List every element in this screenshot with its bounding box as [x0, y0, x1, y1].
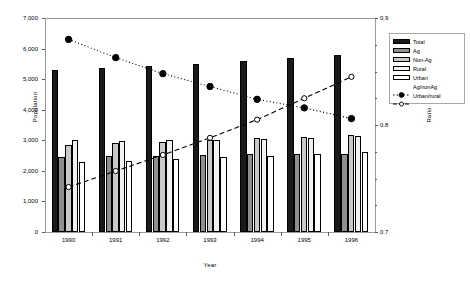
y-axis-right-minor-tickmark [375, 205, 377, 206]
marker-ag-nonag [348, 115, 354, 121]
y-axis-right-tick-label: 0.8 [380, 122, 402, 128]
legend-item-label: Urban/rural [413, 93, 441, 99]
legend-item-label: Rural [413, 66, 426, 72]
legend-item[interactable]: Ag/nonAg [393, 82, 462, 91]
y-axis-right-tickmark [375, 125, 378, 126]
bar-non-ag [65, 145, 71, 232]
y-axis-left-tickmark [42, 201, 45, 202]
bar-total [334, 55, 340, 232]
y-axis-left-tick-label: 7,000 [2, 15, 38, 21]
marker-urban-rural [302, 96, 307, 101]
bar-total [193, 64, 199, 232]
x-axis-tick-label: 1995 [284, 237, 324, 243]
bar-ag [341, 154, 347, 232]
legend-line-icon [393, 84, 410, 90]
axis-bottom-line [45, 232, 376, 233]
bar-urban [362, 152, 368, 232]
x-axis-tick-label: 1996 [331, 237, 371, 243]
bar-rural [213, 140, 219, 232]
bar-non-ag [301, 137, 307, 232]
y-axis-left-tickmark [42, 110, 45, 111]
bar-urban [126, 161, 132, 232]
x-axis-title: Year [150, 262, 270, 268]
bar-ag [247, 154, 253, 232]
x-axis-tickmark [234, 232, 235, 236]
bar-rural [355, 136, 361, 232]
axis-left-line [45, 18, 46, 233]
y-axis-right-tickmark [375, 232, 378, 233]
y-axis-left-tick-label: 2,000 [2, 168, 38, 174]
y-axis-right-tick-label: 0.7 [380, 229, 402, 235]
bar-rural [72, 140, 78, 232]
legend-line-icon [393, 93, 410, 99]
x-axis-tickmark [92, 232, 93, 236]
bar-ag [294, 154, 300, 232]
legend-item-label: Urban [413, 75, 428, 81]
line-ag-nonag [69, 39, 352, 118]
bar-rural [119, 141, 125, 232]
bar-non-ag [348, 135, 354, 232]
y-axis-right-minor-tickmark [375, 152, 377, 153]
y-axis-left-title: Population [32, 77, 38, 137]
y-axis-left-tickmark [42, 140, 45, 141]
legend-item[interactable]: Rural [393, 64, 462, 73]
y-axis-left-tickmark [42, 232, 45, 233]
bar-non-ag [112, 143, 118, 232]
marker-ag-nonag [301, 105, 307, 111]
bar-rural [166, 140, 172, 232]
legend-item-label: Ag/nonAg [413, 84, 437, 90]
marker-urban-rural [255, 117, 260, 122]
marker-ag-nonag [160, 70, 166, 76]
y-axis-left-tick-label: 6,000 [2, 46, 38, 52]
x-axis-tickmark [139, 232, 140, 236]
bar-non-ag [159, 142, 165, 232]
chart-legend: TotalAgNon-AgRuralUrbanAg/nonAgUrban/rur… [389, 33, 465, 104]
y-axis-right-tick-label: 0.9 [380, 15, 402, 21]
y-axis-right-minor-tickmark [375, 45, 377, 46]
legend-swatch-icon [393, 39, 410, 44]
x-axis-tick-label: 1992 [143, 237, 183, 243]
legend-swatch-icon [393, 75, 410, 80]
y-axis-left-tickmark [42, 171, 45, 172]
y-axis-left-tick-label: 1,000 [2, 198, 38, 204]
marker-ag-nonag [207, 83, 213, 89]
legend-item[interactable]: Non-Ag [393, 55, 462, 64]
x-axis-tick-label: 1990 [49, 237, 89, 243]
bar-total [287, 58, 293, 232]
y-axis-right-minor-tickmark [375, 72, 377, 73]
axis-top-line [45, 18, 376, 19]
bar-ag [106, 156, 112, 232]
bar-total [146, 66, 152, 232]
bar-urban [314, 154, 320, 232]
legend-item[interactable]: Total [393, 37, 462, 46]
y-axis-left-tick-label: 0 [2, 229, 38, 235]
bar-urban [220, 157, 226, 232]
bar-urban [173, 159, 179, 232]
population-ratio-chart: 7,0006,0005,0004,0003,0002,0001,0000 0.9… [0, 0, 470, 283]
bar-non-ag [207, 140, 213, 232]
bar-total [52, 70, 58, 232]
x-axis-tick-label: 1994 [237, 237, 277, 243]
bar-total [240, 61, 246, 232]
marker-ag-nonag [254, 96, 260, 102]
legend-swatch-icon [393, 57, 410, 62]
legend-item[interactable]: Urban/rural [393, 91, 462, 100]
legend-item-label: Total [413, 39, 425, 45]
y-axis-right-minor-tickmark [375, 179, 377, 180]
x-axis-tickmark [328, 232, 329, 236]
x-axis-tickmark [281, 232, 282, 236]
marker-urban-rural [349, 74, 354, 79]
y-axis-left-tick-label: 3,000 [2, 137, 38, 143]
legend-item[interactable]: Urban [393, 73, 462, 82]
y-axis-right-minor-tickmark [375, 98, 377, 99]
x-axis-tickmark [186, 232, 187, 236]
bar-ag [200, 155, 206, 232]
legend-item[interactable]: Ag [393, 46, 462, 55]
marker-ag-nonag [113, 54, 119, 60]
legend-item-label: Non-Ag [413, 57, 432, 63]
bar-total [99, 68, 105, 232]
x-axis-tick-label: 1991 [96, 237, 136, 243]
bar-rural [261, 139, 267, 232]
legend-swatch-icon [393, 48, 410, 53]
bar-non-ag [254, 138, 260, 232]
